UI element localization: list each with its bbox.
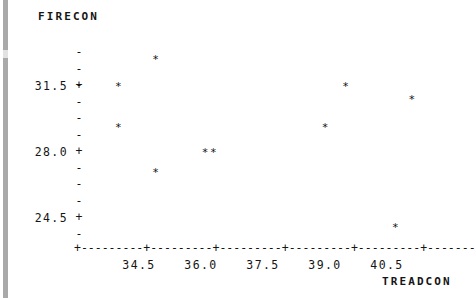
y-axis-minor-tick: - [74,196,84,208]
y-axis-tick-label: 28.0 [20,145,68,159]
y-axis-minor-tick: - [74,229,84,241]
data-point [408,96,415,103]
y-axis-minor-tick: - [74,97,84,109]
x-axis-tick-label: 37.5 [233,258,293,272]
x-axis-tick-label: 34.5 [109,258,169,272]
data-point [210,149,217,156]
x-axis-tick-label: 40.5 [357,258,417,272]
data-point [392,224,399,231]
x-axis-tick-label: 39.0 [295,258,355,272]
x-axis-tick-label: 36.0 [171,258,231,272]
data-point [115,83,122,90]
y-axis-major-tick: + [74,212,84,224]
y-axis-minor-tick: - [74,130,84,142]
data-point [115,124,122,131]
y-axis-minor-tick: - [74,64,84,76]
x-axis-line: +---------+---------+---------+---------… [74,242,476,254]
data-point [322,124,329,131]
data-point [202,149,209,156]
y-axis-tick-label: 31.5 [20,79,68,93]
y-axis-title: FIRECON [38,10,99,23]
data-point [342,83,349,90]
data-point [152,169,159,176]
y-axis-minor-tick: - [74,179,84,191]
data-point [152,56,159,63]
y-axis-tick-label: 24.5 [20,211,68,225]
x-axis-title: TREADCON [382,275,452,288]
y-axis-major-tick: + [74,80,84,92]
y-axis-minor-tick: - [74,163,84,175]
y-axis-minor-tick: - [74,47,84,59]
y-axis-major-tick: + [74,146,84,158]
y-axis-minor-tick: - [74,113,84,125]
